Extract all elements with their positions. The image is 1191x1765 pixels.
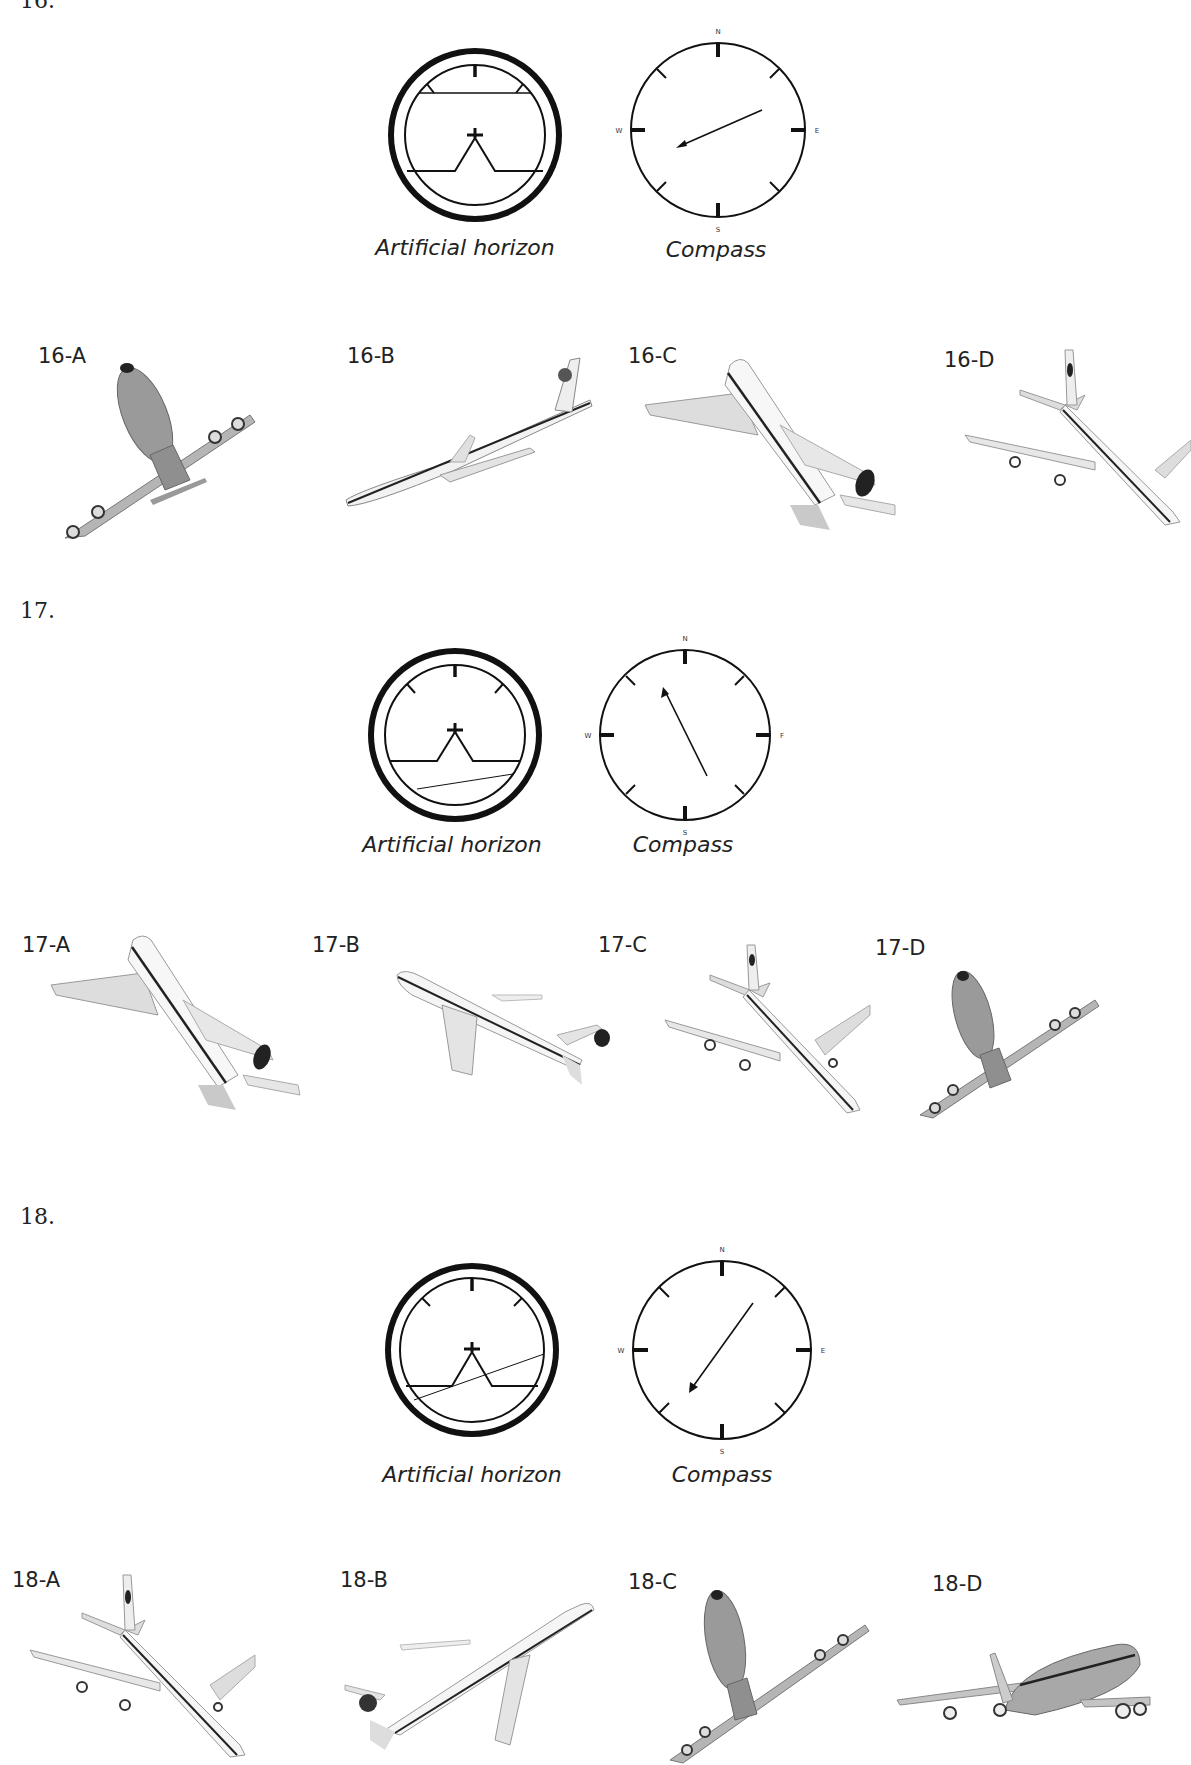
airplane-front-icon xyxy=(670,1587,869,1763)
option-image-18b[interactable] xyxy=(340,1600,600,1750)
option-image-18d[interactable] xyxy=(895,1625,1165,1745)
airplane-rear-icon xyxy=(51,936,300,1110)
option-image-16b[interactable] xyxy=(340,350,600,520)
option-image-16d[interactable] xyxy=(965,350,1191,530)
option-image-17b[interactable] xyxy=(392,965,632,1085)
compass-n-label: N xyxy=(719,1246,724,1254)
compass-instrument: N S W F xyxy=(595,645,775,825)
compass-w-label: W xyxy=(585,732,592,740)
question-number: 16. xyxy=(20,0,55,13)
airplane-front-icon xyxy=(65,360,255,538)
artificial-horizon-caption: Artificial horizon xyxy=(382,1462,561,1487)
question-number: 18. xyxy=(20,1204,55,1229)
compass-caption: Compass xyxy=(672,1462,773,1487)
compass-caption: Compass xyxy=(666,237,767,262)
compass-e-label: E xyxy=(815,127,819,135)
artificial-horizon-instrument xyxy=(385,45,565,225)
artificial-horizon-instrument xyxy=(382,1260,562,1440)
option-label-18d: 18-D xyxy=(932,1572,982,1596)
artificial-horizon-caption: Artificial horizon xyxy=(362,832,541,857)
airplane-side-icon xyxy=(345,1603,594,1750)
option-image-18c[interactable] xyxy=(665,1590,875,1765)
compass-s-label: S xyxy=(716,226,721,234)
airplane-front-icon xyxy=(897,1644,1150,1719)
airplane-side-icon xyxy=(397,971,610,1085)
question-number: 17. xyxy=(20,598,55,623)
option-image-17a[interactable] xyxy=(48,935,318,1115)
compass-instrument: N S W E xyxy=(628,40,808,220)
airplane-front-icon xyxy=(920,967,1099,1118)
compass-instrument: N S W E xyxy=(632,1260,812,1440)
airplane-side-icon xyxy=(346,358,592,506)
airplane-top-icon xyxy=(665,945,870,1113)
airplane-rear-icon xyxy=(645,359,895,530)
option-label-17d: 17-D xyxy=(875,936,925,960)
option-image-16c[interactable] xyxy=(640,355,930,535)
airplane-top-icon xyxy=(965,350,1191,525)
option-label-17b: 17-B xyxy=(312,933,360,957)
artificial-horizon-caption: Artificial horizon xyxy=(375,235,554,260)
compass-caption: Compass xyxy=(633,832,734,857)
compass-s-label: S xyxy=(720,1448,725,1456)
compass-w-label: W xyxy=(616,127,623,135)
compass-n-label: N xyxy=(682,635,687,643)
option-label-17c: 17-C xyxy=(598,933,647,957)
option-image-17d[interactable] xyxy=(915,970,1105,1120)
compass-e-label: E xyxy=(821,1347,825,1355)
option-label-18b: 18-B xyxy=(340,1568,388,1592)
option-image-18a[interactable] xyxy=(30,1575,260,1760)
option-image-17c[interactable] xyxy=(665,945,875,1115)
option-image-16a[interactable] xyxy=(55,360,295,540)
artificial-horizon-instrument xyxy=(365,645,545,825)
compass-e-label: F xyxy=(780,732,784,740)
compass-n-label: N xyxy=(715,28,720,36)
airplane-top-icon xyxy=(30,1575,255,1757)
compass-w-label: W xyxy=(618,1347,625,1355)
